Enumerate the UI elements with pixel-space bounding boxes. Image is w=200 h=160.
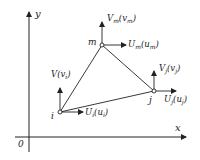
element-diagram	[0, 0, 200, 160]
node-i-label: i	[51, 112, 54, 121]
node-i	[58, 110, 62, 114]
node-m	[100, 43, 104, 47]
x-axis-label: x	[175, 123, 181, 133]
node-m-v-label: Vm(vm)	[107, 14, 136, 24]
node-m-label: m	[88, 38, 97, 47]
node-i-v-label: V(vi)	[51, 70, 71, 80]
node-j-v-label: Vj(vj)	[159, 64, 180, 74]
node-j-u-label: Uj(uj)	[164, 95, 187, 105]
element-triangle	[60, 45, 154, 112]
y-axis-label: y	[35, 9, 41, 19]
node-m-u-label: Um(um)	[128, 40, 159, 50]
node-j-label: j	[149, 96, 152, 105]
origin-label: 0	[18, 140, 24, 149]
node-i-u-label: Ui(ui)	[85, 108, 108, 118]
node-j	[152, 89, 156, 93]
